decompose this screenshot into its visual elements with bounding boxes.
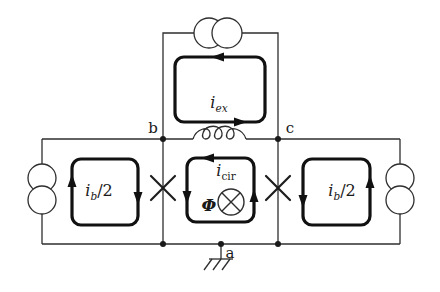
flux-into-page-icon <box>218 189 244 215</box>
loop-label-ib2-left: ib/2 <box>85 183 112 202</box>
arrow-right-loop-up <box>366 175 375 188</box>
wires <box>42 33 400 244</box>
current-source-top-icon <box>194 18 242 48</box>
circuit-diagram: b c a iex icir ib/2 ib/2 Φ <box>0 0 440 292</box>
current-source-left-icon <box>28 164 56 214</box>
node-dot-a <box>218 241 224 247</box>
arrow-top-loop-right <box>234 118 247 127</box>
inductor-icon <box>193 126 246 139</box>
arrow-center-loop-down <box>183 191 192 204</box>
node-dot-bottom-left <box>160 241 166 247</box>
loop-label-ib2-right: ib/2 <box>328 183 355 202</box>
ib2-right-sub: b <box>333 190 340 202</box>
node-dot-b <box>160 136 166 142</box>
node-dot-bottom-right <box>275 241 281 247</box>
icir-sub: cir <box>221 170 235 182</box>
node-label-a: a <box>226 246 235 261</box>
ib2-right-suffix: /2 <box>340 181 356 200</box>
node-label-b: b <box>148 121 158 136</box>
current-source-right-icon <box>386 164 414 214</box>
arrow-center-loop-left <box>201 154 214 163</box>
ib2-left-sub: b <box>90 190 97 202</box>
loop-label-iex: iex <box>210 95 227 114</box>
iex-sub: ex <box>215 102 227 114</box>
arrow-left-loop-down <box>134 192 143 205</box>
node-label-c: c <box>286 121 294 136</box>
arrow-left-loop-up <box>68 174 77 187</box>
arrow-right-loop-down <box>299 195 308 208</box>
loop-label-icir: icir <box>216 163 235 182</box>
node-dot-c <box>275 136 281 142</box>
ib2-left-suffix: /2 <box>97 181 113 200</box>
node-dots <box>160 136 281 247</box>
schematic-svg <box>0 0 440 292</box>
flux-label-phi: Φ <box>202 197 217 214</box>
arrow-center-loop-up <box>250 189 259 202</box>
current-loops <box>72 57 370 225</box>
arrow-top-loop-left <box>211 53 224 62</box>
